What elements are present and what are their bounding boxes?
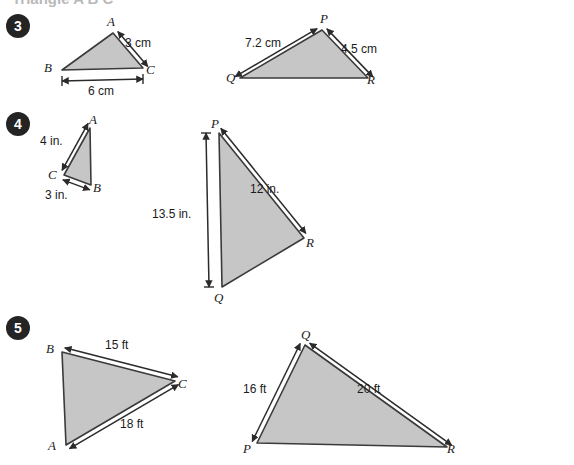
measurement-label: 7.2 cm bbox=[245, 36, 281, 50]
measurement-label: 4.5 cm bbox=[341, 42, 377, 56]
measurement-label: 12 in. bbox=[250, 182, 279, 196]
vertex-label-c: C bbox=[146, 62, 155, 78]
triangle-pqr bbox=[219, 133, 304, 287]
vertex-label-r: R bbox=[447, 441, 455, 457]
measurement-label: 15 ft bbox=[105, 338, 128, 352]
vertex-label-r: R bbox=[367, 72, 375, 88]
vertex-label-p: P bbox=[243, 441, 251, 457]
vertex-label-a: A bbox=[48, 438, 56, 454]
vertex-label-q: Q bbox=[226, 70, 235, 86]
measurement-label: 20 ft bbox=[357, 382, 380, 396]
problem-number-badge: 5 bbox=[6, 316, 30, 340]
measurement-label: 18 ft bbox=[120, 417, 143, 431]
measurement-label: 4 in. bbox=[40, 134, 63, 148]
vertex-label-p: P bbox=[320, 11, 328, 27]
vertex-label-q: Q bbox=[301, 327, 310, 343]
measurement-label: 16 ft bbox=[243, 382, 266, 396]
measurement-label: 3 cm bbox=[125, 36, 151, 50]
figures-svg bbox=[0, 0, 574, 465]
vertex-label-a: A bbox=[89, 112, 97, 128]
vertex-label-r: R bbox=[306, 235, 314, 251]
dimension-arrow bbox=[206, 133, 209, 287]
problem-number-badge: 3 bbox=[6, 14, 30, 38]
vertex-label-b: B bbox=[93, 180, 101, 196]
measurement-label: 3 in. bbox=[45, 188, 68, 202]
worksheet-page: Triangle A B C 3ABC3 cm6 cmPQR7.2 cm4.5 … bbox=[0, 0, 574, 465]
vertex-label-b: B bbox=[46, 341, 54, 357]
triangle-abc bbox=[64, 128, 91, 185]
dimension-arrow bbox=[62, 79, 143, 81]
triangle-pqr bbox=[257, 345, 447, 447]
vertex-label-c: C bbox=[178, 376, 187, 392]
vertex-label-p: P bbox=[211, 116, 219, 132]
vertex-label-b: B bbox=[44, 60, 52, 76]
triangle-abc bbox=[62, 352, 175, 445]
problem-number-badge: 4 bbox=[6, 112, 30, 136]
vertex-label-c: C bbox=[48, 167, 57, 183]
vertex-label-a: A bbox=[107, 14, 115, 30]
measurement-label: 13.5 in. bbox=[152, 207, 191, 221]
vertex-label-q: Q bbox=[214, 290, 223, 306]
measurement-label: 6 cm bbox=[88, 84, 114, 98]
